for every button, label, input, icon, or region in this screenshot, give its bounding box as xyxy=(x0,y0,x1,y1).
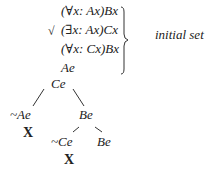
tree-right-right-child: Be xyxy=(97,135,111,149)
closed-marker-left: X xyxy=(23,126,33,140)
tree-right-node: Be xyxy=(79,108,93,122)
closed-marker-right: X xyxy=(64,153,74,167)
tree-left-node: ~Ae xyxy=(10,108,31,122)
tree-right-left-child: ~Ce xyxy=(51,135,72,149)
